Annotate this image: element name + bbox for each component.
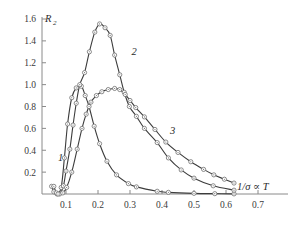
data-marker-center xyxy=(214,193,215,194)
data-marker-center xyxy=(154,129,155,130)
data-marker-center xyxy=(213,174,214,175)
curve-label-2: 2 xyxy=(132,46,138,57)
data-marker-center xyxy=(193,193,194,194)
data-marker-center xyxy=(157,191,158,192)
data-marker-center xyxy=(213,185,214,186)
data-marker-center xyxy=(99,143,100,144)
curve-2 xyxy=(54,24,234,195)
data-marker-center xyxy=(129,106,130,107)
data-marker-center xyxy=(128,183,129,184)
data-marker-center xyxy=(90,102,91,103)
data-marker-center xyxy=(67,123,68,124)
data-marker-center xyxy=(85,95,86,96)
data-marker-center xyxy=(190,161,191,162)
data-marker-center xyxy=(106,161,107,162)
data-marker-center xyxy=(89,51,90,52)
data-marker-center xyxy=(181,169,182,170)
data-marker-center xyxy=(81,128,82,129)
x-tick-label: 0.2 xyxy=(92,200,104,210)
data-marker-center xyxy=(203,169,204,170)
axes-group xyxy=(42,17,288,194)
data-marker-center xyxy=(79,84,80,85)
data-marker-center xyxy=(114,55,115,56)
data-marker-center xyxy=(136,116,137,117)
x-tick-label: 0.4 xyxy=(156,200,168,210)
data-marker-center xyxy=(101,91,102,92)
x-tick-label: 0.1 xyxy=(60,200,72,210)
markers-group xyxy=(50,22,237,196)
y-tick-label: 0.4 xyxy=(24,146,36,156)
data-marker-center xyxy=(77,149,78,150)
y-tick-label: 0.2 xyxy=(24,168,36,178)
y-tick-label: 1.0 xyxy=(24,80,36,90)
data-marker-center xyxy=(94,32,95,33)
data-marker-center xyxy=(108,89,109,90)
r2-vs-inverse-sigma-chart: 0.20.40.60.81.01.21.41.6 0.10.20.30.40.5… xyxy=(0,0,294,229)
x-tick-label: 0.6 xyxy=(220,200,232,210)
chart-screenshot: 0.20.40.60.81.01.21.41.6 0.10.20.30.40.5… xyxy=(0,0,294,229)
data-marker-center xyxy=(65,170,66,171)
data-marker-center xyxy=(104,27,105,28)
curve-label-1: 1 xyxy=(58,152,63,163)
data-marker-center xyxy=(136,186,137,187)
data-marker-center xyxy=(157,142,158,143)
data-marker-center xyxy=(177,152,178,153)
data-marker-center xyxy=(125,94,126,95)
data-marker-center xyxy=(110,35,111,36)
data-marker-center xyxy=(193,178,194,179)
data-marker-center xyxy=(233,183,234,184)
data-marker-center xyxy=(144,128,145,129)
data-marker-center xyxy=(116,174,117,175)
data-marker-center xyxy=(114,88,115,89)
data-marker-center xyxy=(144,116,145,117)
data-marker-center xyxy=(69,149,70,150)
data-marker-center xyxy=(86,114,87,115)
data-marker-center xyxy=(72,125,73,126)
data-marker-center xyxy=(53,186,54,187)
y-tick-label: 1.2 xyxy=(24,58,36,68)
data-marker-center xyxy=(233,190,234,191)
x-tick-label: 0.3 xyxy=(124,200,136,210)
data-marker-center xyxy=(233,193,234,194)
curve-3 xyxy=(58,88,234,194)
y-axis-title: R 2 xyxy=(44,13,57,27)
curve-label-3: 3 xyxy=(169,125,175,136)
data-marker-center xyxy=(84,72,85,73)
data-marker-center xyxy=(88,106,89,107)
data-marker-center xyxy=(71,97,72,98)
data-marker-center xyxy=(57,193,58,194)
data-marker-center xyxy=(96,95,97,96)
data-marker-center xyxy=(66,187,67,188)
data-marker-center xyxy=(135,107,136,108)
y-axis-title-subscript: 2 xyxy=(53,19,57,27)
y-tick-label: 1.4 xyxy=(24,36,36,46)
y-axis-ticks: 0.20.40.60.81.01.21.41.6 xyxy=(24,14,46,177)
data-marker-center xyxy=(76,103,77,104)
x-axis-title: 1/σ ∝ T xyxy=(237,181,270,192)
data-marker-center xyxy=(168,157,169,158)
data-marker-center xyxy=(99,23,100,24)
data-marker-center xyxy=(119,89,120,90)
data-marker-center xyxy=(64,157,65,158)
data-marker-center xyxy=(168,192,169,193)
data-marker-center xyxy=(94,126,95,127)
curves-group xyxy=(52,24,234,195)
x-tick-label: 0.7 xyxy=(252,200,264,210)
y-tick-label: 0.6 xyxy=(24,124,36,134)
data-marker-center xyxy=(224,179,225,180)
data-marker-center xyxy=(119,74,120,75)
data-marker-center xyxy=(62,192,63,193)
data-marker-center xyxy=(76,87,77,88)
x-tick-label: 0.5 xyxy=(188,200,200,210)
data-marker-center xyxy=(129,100,130,101)
data-marker-center xyxy=(71,172,72,173)
data-marker-center xyxy=(165,141,166,142)
data-marker-center xyxy=(63,185,64,186)
y-tick-label: 0.8 xyxy=(24,102,36,112)
y-axis-title-main: R xyxy=(44,13,52,24)
y-tick-label: 1.6 xyxy=(24,14,36,24)
